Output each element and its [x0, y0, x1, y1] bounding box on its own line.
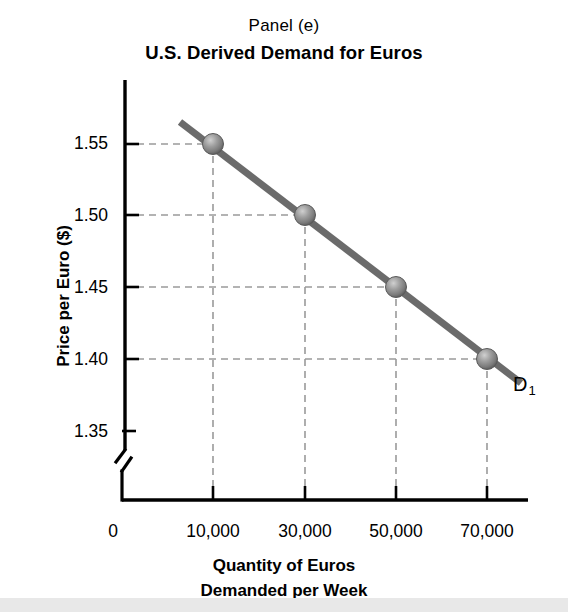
curve-label-d1: D1: [513, 373, 535, 396]
x-axis-title: Quantity of Euros Demanded per Week: [0, 553, 568, 603]
x-axis-ticks: [213, 486, 487, 500]
plot-area: [0, 0, 568, 612]
data-point-50000-145: [386, 277, 407, 298]
x-axis-title-line1: Quantity of Euros: [213, 556, 356, 575]
curve-label-text: D: [513, 373, 527, 395]
chart-figure: Panel (e) U.S. Derived Demand for Euros …: [0, 0, 568, 612]
curve-label-subscript: 1: [528, 383, 535, 398]
data-point-10000-155: [203, 134, 224, 155]
data-point-70000-140: [477, 349, 498, 370]
data-point-30000-150: [295, 205, 316, 226]
y-axis-break-icon: [116, 450, 131, 500]
scan-artifact-band: [0, 598, 568, 612]
demand-curve-d1: [180, 122, 521, 383]
gridlines-horizontal: [125, 144, 487, 359]
